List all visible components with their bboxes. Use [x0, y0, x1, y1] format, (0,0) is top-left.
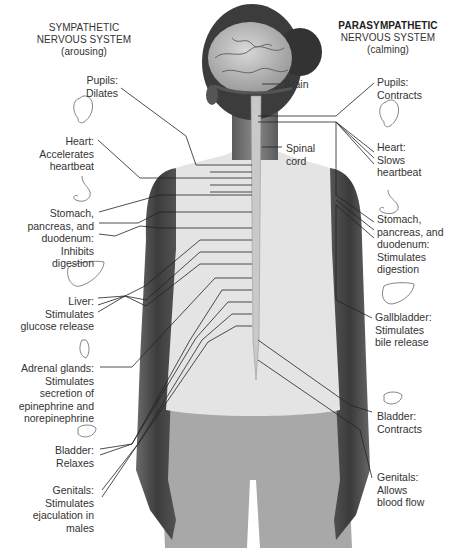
label-line: Contracts	[377, 423, 455, 436]
label-line: Stimulates	[0, 497, 94, 510]
label-line: Heart:	[377, 141, 455, 154]
label-line: Genitals:	[0, 484, 94, 497]
nervous-system-diagram: SYMPATHETIC NERVOUS SYSTEM (arousing) PA…	[0, 0, 457, 555]
label-gallbladder-stimulates: Gallbladder: Stimulates bile release	[375, 311, 455, 349]
label-line: Pupils:	[40, 74, 118, 87]
label-adrenal-stimulates: Adrenal glands: Stimulates secretion of …	[0, 362, 94, 425]
label-line: duodenum:	[377, 238, 457, 251]
label-line: Inhibits	[0, 245, 94, 258]
label-line: Adrenal glands:	[0, 362, 94, 375]
stomach-icon	[380, 190, 398, 214]
label-genitals-blood-flow: Genitals: Allows blood flow	[377, 471, 455, 509]
bladder-icon	[384, 392, 402, 404]
label-line: Stimulates	[0, 375, 94, 388]
label-line: digestion	[377, 263, 457, 276]
label-genitals-ejaculation: Genitals: Stimulates ejaculation in male…	[0, 484, 94, 534]
label-line: secretion of	[0, 387, 94, 400]
label-line: pancreas, and	[377, 226, 457, 239]
brain-shape	[208, 22, 292, 94]
label-line: Stimulates	[375, 324, 455, 337]
label-line: digestion	[0, 257, 94, 270]
parasympathetic-header: PARASYMPATHETIC NERVOUS SYSTEM (calming)	[318, 20, 457, 56]
label-line: Relaxes	[10, 457, 94, 470]
label-line: epinephrine and	[0, 400, 94, 413]
label-line: males	[0, 522, 94, 535]
label-line: Spinal	[286, 142, 315, 155]
head	[202, 4, 322, 120]
label-line: Bladder:	[377, 410, 455, 423]
label-bladder-contracts: Bladder: Contracts	[377, 410, 455, 435]
label-line: Genitals:	[377, 471, 455, 484]
label-pupils-contracts: Pupils: Contracts	[377, 76, 455, 101]
label-line: bile release	[375, 336, 455, 349]
sympathetic-title-line2: NERVOUS SYSTEM	[14, 34, 154, 46]
heart-icon	[74, 96, 93, 123]
shorts	[160, 408, 352, 548]
heart-icon	[380, 100, 399, 127]
sympathetic-subtitle: (arousing)	[14, 46, 154, 58]
label-line: Bladder:	[10, 444, 94, 457]
label-line: Heart:	[10, 135, 94, 148]
gallbladder-icon	[382, 283, 414, 304]
label-line: Allows	[377, 484, 455, 497]
label-line: glucose release	[0, 320, 94, 333]
label-line: cord	[286, 155, 315, 168]
label-line: Accelerates	[10, 148, 94, 161]
label-brain: Brain	[284, 78, 309, 91]
label-line: Gallbladder:	[375, 311, 455, 324]
label-pupils-dilates: Pupils: Dilates	[40, 74, 118, 99]
label-heart-accelerates: Heart: Accelerates heartbeat	[10, 135, 94, 173]
label-line: Dilates	[40, 87, 118, 100]
label-line: duodenum:	[0, 232, 94, 245]
sympathetic-header: SYMPATHETIC NERVOUS SYSTEM (arousing)	[14, 22, 154, 58]
label-line: Slows	[377, 154, 455, 167]
label-stomach-stimulates: Stomach, pancreas, and duodenum: Stimula…	[377, 213, 457, 276]
parasympathetic-title: PARASYMPATHETIC	[318, 20, 457, 32]
bladder-icon	[78, 425, 96, 437]
label-bladder-relaxes: Bladder: Relaxes	[10, 444, 94, 469]
label-line: Contracts	[377, 89, 455, 102]
label-spinal-cord: Spinal cord	[286, 142, 315, 167]
stomach-icon	[74, 176, 90, 201]
label-line: norepinephrine	[0, 412, 94, 425]
parasympathetic-subtitle: (calming)	[318, 44, 457, 56]
label-line: pancreas, and	[0, 220, 94, 233]
label-line: blood flow	[377, 496, 455, 509]
label-line: heartbeat	[10, 160, 94, 173]
label-line: Brain	[284, 78, 309, 91]
label-line: Pupils:	[377, 76, 455, 89]
label-line: Liver:	[0, 295, 94, 308]
sympathetic-title: SYMPATHETIC	[14, 22, 154, 34]
label-line: Stomach,	[0, 207, 94, 220]
label-line: heartbeat	[377, 166, 455, 179]
label-line: Stimulates	[0, 308, 94, 321]
adrenal-gland-icon	[80, 340, 89, 358]
label-liver-stimulates: Liver: Stimulates glucose release	[0, 295, 94, 333]
parasympathetic-title-line2: NERVOUS SYSTEM	[318, 32, 457, 44]
label-line: ejaculation in	[0, 509, 94, 522]
label-stomach-inhibits: Stomach, pancreas, and duodenum: Inhibit…	[0, 207, 94, 270]
label-line: Stomach,	[377, 213, 457, 226]
label-line: Stimulates	[377, 251, 457, 264]
label-heart-slows: Heart: Slows heartbeat	[377, 141, 455, 179]
